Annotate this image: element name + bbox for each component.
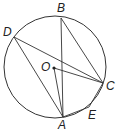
segment-ba <box>61 18 63 117</box>
diagram-svg: A B C D E O <box>0 0 119 130</box>
segment-bc <box>61 18 103 83</box>
geometry-diagram: A B C D E O <box>0 0 119 130</box>
segments <box>14 18 103 117</box>
segment-dc <box>14 37 103 83</box>
label-b: B <box>57 1 65 15</box>
segment-ec <box>89 83 103 107</box>
label-a: A <box>57 118 66 130</box>
segment-ae <box>63 107 89 117</box>
label-o: O <box>41 60 50 74</box>
label-e: E <box>88 108 97 122</box>
center-point-o <box>52 66 55 69</box>
label-c: C <box>106 79 115 93</box>
label-d: D <box>3 25 12 39</box>
